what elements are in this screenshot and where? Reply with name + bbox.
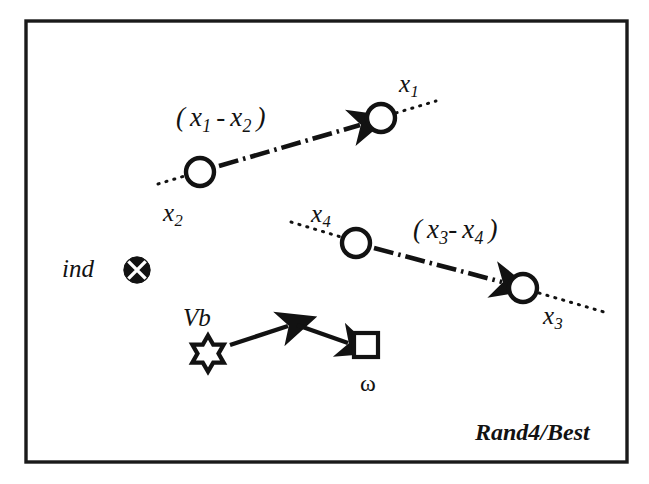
node-circle-x4 <box>342 229 370 257</box>
guide-dotted-x1 <box>396 101 436 113</box>
label-difference-x3-x4: (x3-x4) <box>413 216 497 248</box>
arrow-vb-to-mid <box>230 326 288 345</box>
label-x3: x3 <box>543 303 563 333</box>
crossed-circle-icon <box>124 257 150 283</box>
label-x1-sub: 1 <box>410 82 419 101</box>
node-circle-x2 <box>186 158 214 186</box>
vector-x3-minus-x4 <box>374 248 502 282</box>
label-x4-sub: 4 <box>322 212 331 231</box>
label-ind: ind <box>62 256 94 281</box>
paren-open: ( <box>413 214 422 244</box>
guide-dotted-x2 <box>158 175 188 184</box>
operand-right: x <box>230 102 242 132</box>
label-x1-base: x <box>399 70 410 97</box>
operand-left-sub: 1 <box>202 116 211 136</box>
operand-left: x <box>427 214 439 244</box>
label-x2-sub: 2 <box>174 211 183 230</box>
diagram-canvas <box>0 0 649 484</box>
label-x2-base: x <box>163 199 174 226</box>
operator: - <box>448 214 457 244</box>
figure-caption: Rand4/Best <box>475 420 590 444</box>
operand-right-sub: 4 <box>474 228 483 248</box>
operand-right-sub: 2 <box>242 116 251 136</box>
paren-open: ( <box>176 102 185 132</box>
label-vb: Vb <box>183 305 211 330</box>
operand-left-sub: 3 <box>439 228 448 248</box>
label-x3-sub: 3 <box>554 314 563 333</box>
six-point-star-icon <box>192 336 223 372</box>
figure-border <box>26 21 627 462</box>
label-x3-base: x <box>543 302 554 329</box>
label-x4: x4 <box>311 201 331 231</box>
label-omega: ω <box>360 371 376 395</box>
label-x4-base: x <box>311 200 322 227</box>
paren-close: ) <box>488 214 497 244</box>
node-circle-x3 <box>509 274 537 302</box>
label-difference-x1-x2: (x1-x2) <box>176 104 265 136</box>
node-circle-x1 <box>367 104 395 132</box>
operand-left: x <box>190 102 202 132</box>
label-x1: x1 <box>399 71 419 101</box>
node-square-omega <box>354 333 378 357</box>
operator: - <box>216 102 225 132</box>
label-x2: x2 <box>163 200 183 230</box>
operand-right: x <box>462 214 474 244</box>
paren-close: ) <box>256 102 265 132</box>
figure-panel: (x1-x2) (x3-x4) x1 x2 x3 x4 ind Vb ω Ran… <box>0 0 649 484</box>
arrow-mid-to-omega <box>297 325 348 343</box>
